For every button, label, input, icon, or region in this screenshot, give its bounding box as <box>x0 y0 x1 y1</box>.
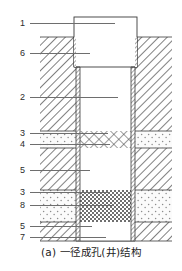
callout-5-lower-number: 5 <box>14 221 25 232</box>
casing-wall-left <box>76 63 80 241</box>
callout-4: 4 <box>14 139 134 150</box>
callout-3-upper-number: 3 <box>14 128 25 139</box>
callout-3-lower-leader <box>30 192 108 193</box>
callout-2-number: 2 <box>14 92 25 103</box>
callout-8-leader <box>30 205 114 206</box>
callout-7-number: 7 <box>14 232 25 243</box>
callout-8: 8 <box>14 200 134 211</box>
callout-1-number: 1 <box>14 18 25 29</box>
callout-2-leader <box>30 97 118 98</box>
callout-3-lower-number: 3 <box>14 187 25 198</box>
layer-lower-aquifer-right <box>135 190 172 222</box>
well-structure-figure: 1 6 2 3 4 5 3 8 5 7 (a) 一径成孔(井)结构 <box>0 0 182 271</box>
callout-5-lower-leader <box>30 226 92 227</box>
callout-5-upper-leader <box>30 170 90 171</box>
layer-surface-fill-right <box>135 37 172 131</box>
callout-4-number: 4 <box>14 139 25 150</box>
callout-3-upper-leader <box>30 133 108 134</box>
callout-8-number: 8 <box>14 200 25 211</box>
layer-upper-aquifer-right <box>135 131 172 148</box>
casing-wall-right <box>131 63 135 241</box>
callout-5-upper-number: 5 <box>14 165 25 176</box>
callout-1: 1 <box>14 18 134 29</box>
figure-caption: (a) 一径成孔(井)结构 <box>0 244 182 259</box>
callout-4-leader <box>30 144 110 145</box>
callout-5-lower: 5 <box>14 221 134 232</box>
callout-5-upper: 5 <box>14 165 134 176</box>
callout-2: 2 <box>14 92 134 103</box>
layer-aquiclude-right <box>135 148 172 190</box>
callout-3-upper: 3 <box>14 128 134 139</box>
layer-bottom-aquiclude-right <box>135 222 172 241</box>
callout-7-leader <box>30 237 106 238</box>
callout-6: 6 <box>14 48 134 59</box>
callout-7: 7 <box>14 232 134 243</box>
callout-1-leader <box>30 23 115 24</box>
callout-6-number: 6 <box>14 48 25 59</box>
callout-6-leader <box>30 53 90 54</box>
callout-3-lower: 3 <box>14 187 134 198</box>
